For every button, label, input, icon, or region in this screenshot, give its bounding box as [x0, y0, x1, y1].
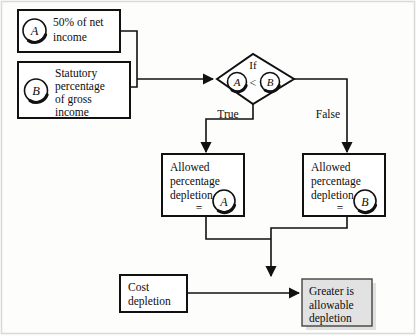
input-b-line2: percentage [55, 80, 105, 93]
edge-label-true: True [217, 108, 238, 120]
decision-right-marker: B [267, 76, 274, 88]
result-line2: allowable [309, 299, 354, 311]
decision-left-marker: A [233, 76, 241, 88]
edge-label-false: False [316, 108, 340, 120]
decision-operator: < [250, 76, 257, 90]
decision-keyword: If [249, 59, 257, 71]
connector-b-to-junction [130, 79, 137, 87]
input-b-line3: of gross [55, 93, 92, 106]
connector-true-to-merge [206, 216, 271, 239]
node-branch-false[interactable]: Allowed percentage depletion = B [303, 154, 385, 216]
node-branch-true[interactable]: Allowed percentage depletion = A [162, 154, 244, 216]
cost-depletion-line1: Cost [128, 281, 150, 293]
cost-depletion-line2: depletion [128, 295, 171, 308]
branch-false-equals: = [337, 202, 344, 214]
flowchart-canvas: A 50% of net income B Statutory percenta… [0, 0, 416, 336]
branch-false-marker-letter: B [361, 195, 369, 209]
input-b-line4: income [55, 106, 89, 118]
flowchart-svg: A 50% of net income B Statutory percenta… [0, 0, 416, 336]
input-a-marker-letter: A [30, 24, 39, 38]
node-decision[interactable]: If A < B [217, 54, 294, 104]
node-input-a[interactable]: A 50% of net income [18, 10, 120, 52]
result-line3: depletion [309, 312, 352, 325]
input-b-marker-letter: B [32, 84, 40, 98]
input-a-line1: 50% of net [53, 16, 104, 28]
branch-true-line1: Allowed [170, 161, 210, 173]
result-line1: Greater is [309, 285, 355, 297]
branch-false-line1: Allowed [311, 161, 351, 173]
input-b-line1: Statutory [55, 67, 97, 80]
node-input-b[interactable]: B Statutory percentage of gross income [18, 62, 130, 118]
branch-false-line3: depletion [311, 189, 354, 202]
node-cost-depletion[interactable]: Cost depletion [120, 275, 187, 312]
connector-false-to-merge [271, 216, 347, 239]
node-result[interactable]: Greater is allowable depletion [302, 279, 376, 330]
branch-true-marker-letter: A [219, 195, 228, 209]
branch-true-line2: percentage [170, 175, 220, 188]
branch-false-line2: percentage [311, 175, 361, 188]
branch-true-line3: depletion [170, 189, 213, 202]
input-a-line2: income [53, 31, 87, 43]
branch-true-equals: = [196, 202, 203, 214]
